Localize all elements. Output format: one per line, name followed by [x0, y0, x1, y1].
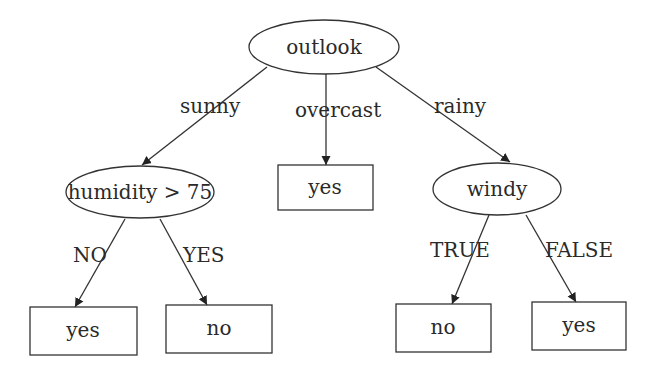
- leaf-humidity-no: yes: [30, 307, 137, 355]
- leaf-label-windy-true: no: [431, 315, 456, 339]
- leaf-label-humidity-yes: no: [207, 316, 232, 340]
- node-label-outlook: outlook: [286, 35, 362, 59]
- node-label-humidity: humidity > 75: [68, 180, 213, 204]
- node-humidity: humidity > 75: [66, 166, 214, 218]
- edge-label-no: NO: [73, 243, 107, 267]
- leaf-overcast-yes: yes: [278, 165, 373, 210]
- node-windy: windy: [433, 163, 561, 215]
- edge-label-rainy: rainy: [434, 94, 487, 118]
- edge-label-true: TRUE: [430, 238, 490, 262]
- node-outlook: outlook: [249, 20, 399, 74]
- decision-tree-diagram: sunny overcast rainy NO YES TRUE FALSE o…: [0, 0, 654, 374]
- leaf-windy-true: no: [396, 304, 491, 352]
- node-label-windy: windy: [467, 177, 528, 201]
- leaf-label-humidity-no: yes: [65, 318, 99, 342]
- leaf-windy-false: yes: [532, 302, 626, 350]
- edge-label-overcast: overcast: [295, 98, 381, 122]
- edge-label-yes: YES: [182, 243, 225, 267]
- leaf-label-windy-false: yes: [561, 313, 595, 337]
- leaf-humidity-yes: no: [166, 305, 272, 353]
- edge-label-sunny: sunny: [180, 94, 241, 118]
- edge-label-false: FALSE: [545, 238, 613, 262]
- leaf-label-overcast: yes: [307, 175, 341, 199]
